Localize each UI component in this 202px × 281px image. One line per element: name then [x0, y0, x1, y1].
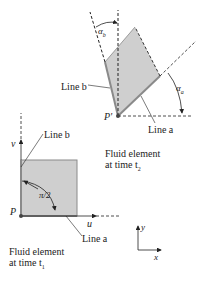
v-axis-label: v [11, 138, 15, 149]
alpha-a-label: αa [176, 83, 184, 98]
top-caption: Fluid element at time t2 [105, 148, 160, 175]
p-label: P [10, 206, 16, 217]
pi-half-label: π/2 [39, 190, 51, 201]
x-axis-label: x [154, 252, 158, 263]
top-line-a-label: Line a [148, 124, 173, 135]
bottom-caption: Fluid element at time t1 [9, 246, 64, 273]
bottom-line-b-label: Line b [44, 129, 70, 140]
y-axis-label: y [141, 222, 145, 233]
p-prime-label: P' [104, 111, 112, 122]
bottom-line-a-label: Line a [82, 233, 107, 244]
u-axis-label: u [87, 218, 92, 229]
top-line-b-label: Line b [61, 81, 87, 92]
alpha-b-label: αb [98, 26, 106, 41]
